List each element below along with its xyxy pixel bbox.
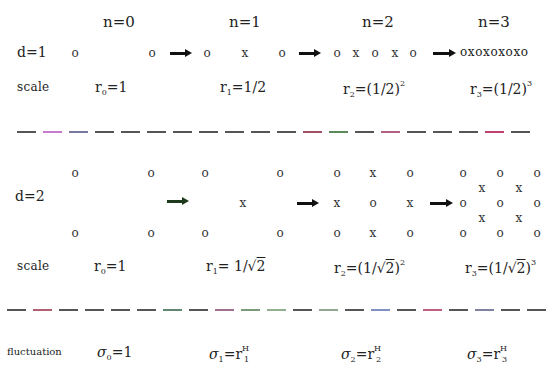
scale1-r0: r0=1 bbox=[95, 80, 127, 97]
fluctuation-s0: σ0=1 bbox=[97, 345, 132, 362]
d1-n0-point: o bbox=[71, 47, 78, 59]
d1-n2-point: o bbox=[333, 47, 340, 59]
d1-label: d=1 bbox=[17, 45, 47, 59]
d2-n0-point: o bbox=[71, 227, 78, 239]
arrow-right-icon bbox=[170, 52, 187, 55]
arrow-right-icon bbox=[167, 200, 184, 203]
arrow-right-icon bbox=[433, 52, 451, 55]
scale1-r2: r2=(1/2)2 bbox=[343, 80, 405, 99]
scale2-r2: r2=(1/√2)2 bbox=[334, 259, 405, 278]
fluctuation-s3: σ3=rH3 bbox=[467, 345, 507, 364]
dashed-divider bbox=[7, 309, 546, 311]
d2-n2-point: x bbox=[370, 227, 377, 239]
header-n3: n=3 bbox=[478, 15, 510, 30]
d2-label: d=2 bbox=[15, 189, 45, 203]
d2-n2-point: o bbox=[333, 227, 340, 239]
scale2-r3: r3=(1/√2)3 bbox=[465, 259, 536, 278]
d2-n2-point: o bbox=[406, 167, 413, 179]
fluctuation-s2: σ2=rH2 bbox=[341, 345, 381, 364]
d2-n1-point: o bbox=[201, 167, 208, 179]
d2-n3-point: x bbox=[516, 212, 523, 224]
d2-n0-point: o bbox=[147, 227, 154, 239]
d2-n1-point: x bbox=[240, 197, 247, 209]
d2-n0-point: o bbox=[147, 167, 154, 179]
scale1-r1: r1=1/2 bbox=[220, 80, 266, 97]
d1-n1-point: o bbox=[278, 47, 285, 59]
d2-n1-point: o bbox=[276, 167, 283, 179]
d2-n2-point: x bbox=[407, 197, 414, 209]
d2-n1-point: o bbox=[201, 227, 208, 239]
scale2-r1: r1= 1/√2 bbox=[206, 259, 265, 276]
arrow-right-icon bbox=[299, 52, 316, 55]
scale2-label: scale bbox=[17, 260, 49, 272]
header-n2: n=2 bbox=[362, 15, 394, 30]
d2-n3-point: o bbox=[459, 197, 466, 209]
header-n1: n=1 bbox=[229, 15, 261, 30]
d2-n3-point: x bbox=[479, 212, 486, 224]
d2-n3-point: x bbox=[516, 182, 523, 194]
d1-n2-point: o bbox=[409, 47, 416, 59]
d2-n2-point: x bbox=[334, 197, 341, 209]
d2-n3-point: o bbox=[496, 167, 503, 179]
d1-n0-point: o bbox=[148, 47, 155, 59]
d2-n3-point: x bbox=[479, 182, 486, 194]
d2-n3-point: o bbox=[533, 227, 540, 239]
d1-n1-point: o bbox=[203, 47, 210, 59]
scale1-label: scale bbox=[17, 81, 49, 93]
d2-n3-point: o bbox=[496, 197, 503, 209]
d1-n2-point: x bbox=[392, 47, 399, 59]
d2-n3-point: o bbox=[533, 167, 540, 179]
fluctuation-label: fluctuation bbox=[7, 347, 62, 357]
d2-n2-point: x bbox=[370, 167, 377, 179]
dashed-divider bbox=[17, 131, 530, 133]
d1-n2-point: x bbox=[353, 47, 360, 59]
d1-n3-sequence: oxoxoxoxo bbox=[460, 46, 529, 58]
scale2-r0: r0=1 bbox=[94, 259, 126, 276]
d1-n2-point: o bbox=[371, 47, 378, 59]
scale1-r3: r3=(1/2)3 bbox=[470, 80, 532, 99]
d2-n3-point: o bbox=[496, 227, 503, 239]
d2-n1-point: o bbox=[276, 227, 283, 239]
d2-n3-point: o bbox=[533, 197, 540, 209]
d2-n2-point: o bbox=[369, 197, 376, 209]
fluctuation-s1: σ1=rH1 bbox=[209, 345, 249, 364]
d2-n2-point: o bbox=[333, 167, 340, 179]
d2-n2-point: o bbox=[406, 227, 413, 239]
d2-n3-point: o bbox=[459, 227, 466, 239]
arrow-right-icon bbox=[430, 202, 448, 205]
d2-n3-point: o bbox=[459, 167, 466, 179]
arrow-right-icon bbox=[297, 202, 314, 205]
header-n0: n=0 bbox=[103, 15, 135, 30]
d2-n0-point: o bbox=[71, 167, 78, 179]
d1-n1-point: x bbox=[242, 47, 249, 59]
